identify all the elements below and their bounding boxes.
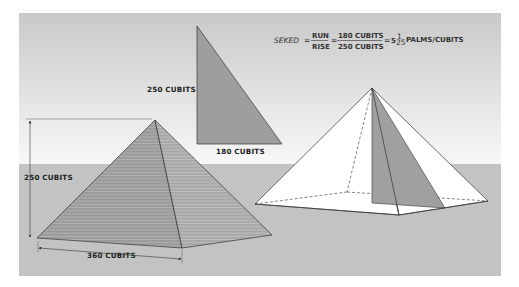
run-label: RUN [312, 32, 329, 40]
equals-1: = [304, 36, 310, 45]
seked-diagram: SEKED = RUN RISE = 180 CUBITS 250 CUBITS… [0, 0, 519, 287]
pyramid-height-label: 250 CUBITS [24, 173, 73, 182]
result-unit: PALMS/CUBITS [406, 36, 464, 44]
equals-3: = [384, 36, 390, 45]
pyramid-base-label: 360 CUBITS [87, 251, 136, 260]
equals-2: = [331, 36, 337, 45]
run-value: 180 CUBITS [338, 32, 384, 40]
rise-label: RISE [312, 43, 330, 51]
triangle-base-label: 180 CUBITS [216, 147, 265, 156]
rise-value: 250 CUBITS [338, 43, 384, 51]
seked-label: SEKED [274, 36, 299, 45]
triangle-height-label: 250 CUBITS [147, 85, 196, 94]
result-frac-den: 25 [396, 38, 406, 47]
